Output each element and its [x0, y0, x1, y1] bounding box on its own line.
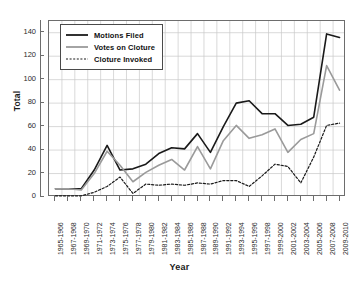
x-tick-mark: [93, 196, 94, 201]
legend-label: Motions Filed: [94, 31, 144, 40]
legend-item: Cloture Invoked: [66, 53, 155, 65]
y-tick-label: 120: [10, 51, 36, 59]
x-tick-mark: [274, 196, 275, 201]
x-tick-mark: [300, 196, 301, 201]
y-tick-label: 100: [10, 75, 36, 83]
x-tick-mark: [197, 196, 198, 201]
x-tick-mark: [261, 196, 262, 201]
x-tick-label: 1987-1988: [200, 222, 207, 255]
x-tick-label: 1989-1990: [212, 222, 219, 255]
x-tick-label: 1967-1968: [70, 222, 77, 255]
y-tick-label: 140: [10, 28, 36, 36]
x-tick-mark: [145, 196, 146, 201]
x-tick-mark: [80, 196, 81, 201]
x-tick-mark: [184, 196, 185, 201]
x-tick-label: 1983-1984: [174, 222, 181, 255]
x-tick-label: 1975-1976: [122, 222, 129, 255]
x-tick-mark: [67, 196, 68, 201]
legend-swatch-icon: [66, 55, 88, 63]
legend-swatch-icon: [66, 31, 88, 39]
x-tick-mark: [106, 196, 107, 201]
y-tick-mark: [40, 149, 44, 150]
y-tick-mark: [40, 125, 44, 126]
x-tick-mark: [54, 196, 55, 201]
x-axis-title: Year: [0, 262, 359, 272]
legend-label: Cloture Invoked: [94, 55, 152, 64]
cloture-line-chart: Total 020406080100120140 1965-19661967-1…: [0, 0, 359, 282]
x-tick-label: 1971-1972: [96, 222, 103, 255]
x-tick-mark: [235, 196, 236, 201]
legend-label: Votes on Cloture: [94, 43, 155, 52]
x-tick-mark: [119, 196, 120, 201]
x-tick-mark: [222, 196, 223, 201]
y-tick-mark: [40, 78, 44, 79]
x-tick-mark: [171, 196, 172, 201]
x-tick-mark: [326, 196, 327, 201]
legend-item: Votes on Cloture: [66, 41, 155, 53]
series-line-1: [55, 66, 339, 190]
y-tick-label: 80: [10, 98, 36, 106]
x-tick-mark: [339, 196, 340, 201]
legend-swatch-icon: [66, 43, 88, 51]
y-tick-mark: [40, 55, 44, 56]
x-tick-label: 1995-1996: [251, 222, 258, 255]
y-tick-mark: [40, 102, 44, 103]
y-axis-line: [40, 20, 41, 196]
x-tick-mark: [287, 196, 288, 201]
y-tick-mark: [40, 31, 44, 32]
y-tick-label: 40: [10, 145, 36, 153]
legend-item: Motions Filed: [66, 29, 155, 41]
x-tick-label: 1993-1994: [238, 222, 245, 255]
x-tick-label: 1981-1982: [161, 222, 168, 255]
x-tick-label: 1985-1986: [187, 222, 194, 255]
x-tick-label: 2007-2008: [329, 222, 336, 255]
x-tick-label: 1965-1966: [57, 222, 64, 255]
chart-legend: Motions FiledVotes on ClotureCloture Inv…: [60, 24, 163, 70]
x-tick-mark: [248, 196, 249, 201]
x-tick-mark: [209, 196, 210, 201]
x-tick-mark: [158, 196, 159, 201]
x-tick-label: 1973-1974: [109, 222, 116, 255]
y-tick-mark: [40, 196, 44, 197]
x-tick-label: 2001-2002: [290, 222, 297, 255]
x-tick-label: 2005-2006: [316, 222, 323, 255]
x-tick-label: 1979-1980: [148, 222, 155, 255]
x-tick-label: 2003-2004: [303, 222, 310, 255]
x-tick-label: 1999-2000: [277, 222, 284, 255]
x-tick-mark: [313, 196, 314, 201]
x-tick-mark: [132, 196, 133, 201]
x-tick-label: 2009-2010: [342, 222, 349, 255]
x-tick-label: 1969-1970: [83, 222, 90, 255]
y-tick-mark: [40, 172, 44, 173]
x-tick-label: 1997-1998: [264, 222, 271, 255]
y-tick-label: 0: [10, 192, 36, 200]
y-tick-label: 60: [10, 122, 36, 130]
y-tick-label: 20: [10, 169, 36, 177]
x-tick-label: 1977-1978: [135, 222, 142, 255]
x-tick-label: 1991-1992: [225, 222, 232, 255]
